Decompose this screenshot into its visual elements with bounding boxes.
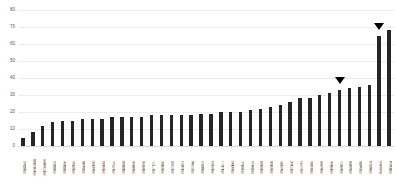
- bar: [189, 115, 192, 146]
- x-tick-label: 沖縄県: [20, 148, 26, 186]
- y-tick-label-70: 70: [1, 25, 15, 30]
- x-tick-label: 熊本県: [79, 148, 85, 186]
- x-tick-label: 福井県: [307, 148, 313, 186]
- x-tick-label: 富山県: [287, 148, 293, 186]
- bar: [31, 132, 34, 146]
- x-axis-tick-labels: 沖縄県鹿児島県和歌山県宮崎県長崎県高知県熊本県佐賀県徳島県大分県愛媛県島根県鳥取…: [18, 148, 394, 188]
- bar: [100, 119, 103, 146]
- x-tick-label: 大分県: [109, 148, 115, 186]
- x-tick-label: 山梨県: [337, 148, 343, 186]
- bar: [110, 117, 113, 146]
- x-tick-mark: [82, 146, 83, 148]
- x-tick-label: 岐阜県: [277, 148, 283, 186]
- y-tick-label-30: 30: [1, 93, 15, 98]
- x-tick-label: 徳島県: [99, 148, 105, 186]
- bar: [288, 102, 291, 146]
- x-tick-mark: [260, 146, 261, 148]
- x-tick-label: 茨城県: [366, 148, 372, 186]
- bar: [61, 121, 64, 147]
- x-tick-mark: [53, 146, 54, 148]
- x-tick-mark: [359, 146, 360, 148]
- x-tick-label: 京都府: [248, 148, 254, 186]
- y-tick-label-0: 0: [1, 144, 15, 149]
- x-tick-label: 北海道: [376, 148, 382, 186]
- bar: [120, 117, 123, 146]
- bar-chart: 01020304050607080 沖縄県鹿児島県和歌山県宮崎県長崎県高知県熊本…: [0, 0, 396, 188]
- x-tick-mark: [132, 146, 133, 148]
- x-tick-mark: [379, 146, 380, 148]
- x-tick-label: 岡山県: [168, 148, 174, 186]
- bar: [150, 115, 153, 146]
- x-tick-label: 栃木県: [356, 148, 362, 186]
- x-tick-mark: [23, 146, 24, 148]
- bar: [368, 85, 371, 146]
- x-tick-label: 宮崎県: [50, 148, 56, 186]
- bar: [140, 117, 143, 146]
- x-tick-label: 福岡県: [158, 148, 164, 186]
- x-tick-mark: [43, 146, 44, 148]
- bar: [348, 88, 351, 146]
- x-tick-mark: [290, 146, 291, 148]
- bar: [308, 98, 311, 146]
- y-tick-label-60: 60: [1, 42, 15, 47]
- bar: [170, 115, 173, 146]
- x-tick-label: 大阪府: [238, 148, 244, 186]
- x-tick-mark: [63, 146, 64, 148]
- x-tick-label: 愛知県: [257, 148, 263, 186]
- x-tick-label: 三重県: [218, 148, 224, 186]
- x-tick-mark: [270, 146, 271, 148]
- bar: [160, 115, 163, 146]
- bar: [358, 87, 361, 147]
- x-tick-mark: [33, 146, 34, 148]
- x-tick-mark: [300, 146, 301, 148]
- x-tick-mark: [142, 146, 143, 148]
- x-tick-label: 兵庫県: [198, 148, 204, 186]
- x-tick-label: 広島県: [178, 148, 184, 186]
- x-tick-mark: [191, 146, 192, 148]
- x-tick-label: 青森県: [386, 148, 392, 186]
- x-tick-mark: [171, 146, 172, 148]
- bar: [81, 119, 84, 146]
- x-tick-mark: [320, 146, 321, 148]
- y-axis-tick-labels: 01020304050607080: [0, 0, 18, 188]
- x-tick-label: 愛媛県: [119, 148, 125, 186]
- x-tick-label: 香川県: [188, 148, 194, 186]
- x-tick-label: 石川県: [297, 148, 303, 186]
- x-tick-label: 鳥取県: [139, 148, 145, 186]
- x-tick-mark: [102, 146, 103, 148]
- bar: [130, 117, 133, 146]
- x-tick-mark: [122, 146, 123, 148]
- x-tick-mark: [201, 146, 202, 148]
- x-tick-mark: [72, 146, 73, 148]
- x-tick-mark: [369, 146, 370, 148]
- bar: [387, 30, 390, 146]
- bars-layer: [18, 10, 394, 146]
- y-tick-label-20: 20: [1, 110, 15, 115]
- x-tick-label: 高知県: [69, 148, 75, 186]
- bar: [318, 95, 321, 146]
- y-tick-label-80: 80: [1, 8, 15, 13]
- bar: [279, 105, 282, 146]
- bar: [21, 138, 24, 147]
- x-tick-label: 和歌山県: [40, 148, 46, 186]
- bar: [269, 107, 272, 146]
- bar: [199, 114, 202, 146]
- x-tick-mark: [221, 146, 222, 148]
- x-tick-mark: [152, 146, 153, 148]
- x-tick-mark: [112, 146, 113, 148]
- x-tick-label: 長崎県: [60, 148, 66, 186]
- bar: [229, 112, 232, 146]
- x-tick-mark: [330, 146, 331, 148]
- bar: [338, 90, 341, 146]
- x-tick-label: 島根県: [129, 148, 135, 186]
- bar: [328, 93, 331, 146]
- x-tick-label: 奈良県: [208, 148, 214, 186]
- bar: [298, 98, 301, 146]
- x-tick-mark: [280, 146, 281, 148]
- gridline-0: [18, 146, 394, 147]
- x-tick-mark: [241, 146, 242, 148]
- x-tick-label: 滋賀県: [228, 148, 234, 186]
- x-tick-mark: [211, 146, 212, 148]
- x-tick-label: 山口県: [149, 148, 155, 186]
- x-tick-mark: [92, 146, 93, 148]
